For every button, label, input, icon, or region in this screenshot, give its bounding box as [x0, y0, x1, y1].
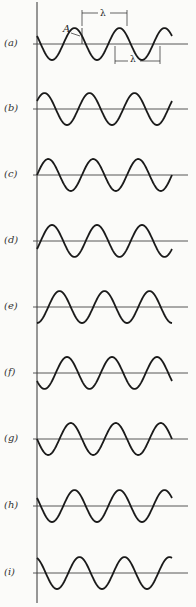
panel-label-6: (f)	[4, 366, 16, 377]
amplitude-leader	[71, 33, 80, 36]
wavelength-label-top: λ	[100, 8, 106, 18]
panel-label-5: (e)	[4, 300, 18, 311]
panel-label-2: (b)	[4, 102, 18, 113]
wavelength-label-bottom: λ	[130, 54, 136, 64]
panel-label-9: (i)	[4, 566, 15, 577]
amplitude-label: A	[63, 23, 70, 34]
panel-label-8: (h)	[4, 499, 18, 510]
panel-label-7: (g)	[4, 432, 18, 443]
wave-figure	[0, 0, 196, 607]
panel-label-4: (d)	[4, 234, 18, 245]
panel-label-1: (a)	[4, 37, 18, 48]
panel-label-3: (c)	[4, 168, 17, 179]
